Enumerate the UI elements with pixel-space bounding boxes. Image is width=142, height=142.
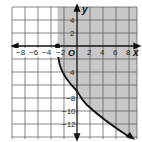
y-tick: −12 [62, 120, 76, 129]
x-axis-label: x [132, 47, 139, 58]
y-tick: −8 [66, 94, 76, 103]
y-axis-down-arrow-icon [75, 134, 80, 140]
x-tick: −2 [56, 48, 66, 57]
y-axis-up-arrow-icon [75, 5, 80, 11]
origin-label: O [68, 48, 75, 58]
inequality-graph: −8 −6 −4 −2 2 4 6 8 4 2 4 −8 −10 −12 O y… [0, 0, 142, 142]
x-tick: −4 [42, 48, 52, 57]
y-tick: 2 [70, 29, 75, 38]
x-tick: 8 [126, 48, 131, 57]
y-tick: 4 [70, 16, 75, 25]
y-tick: 4 [70, 68, 75, 77]
y-tick: −10 [62, 107, 76, 116]
x-tick: −6 [29, 48, 39, 57]
x-tick: 6 [113, 48, 118, 57]
y-axis-label: y [81, 4, 88, 15]
x-tick: 2 [87, 48, 92, 57]
x-tick: −8 [16, 48, 26, 57]
x-tick: 4 [100, 48, 105, 57]
